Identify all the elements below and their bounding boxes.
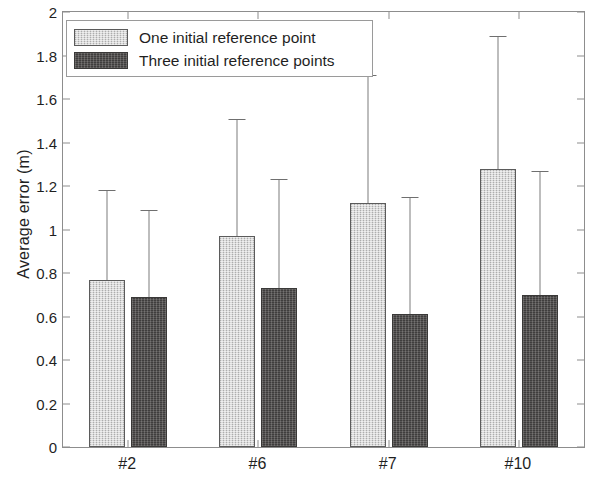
plot-inner: 00.20.40.60.811.21.41.61.82 (63, 12, 584, 447)
error-bar-line (539, 171, 540, 295)
legend-label-one-initial: One initial reference point (139, 30, 316, 46)
y-tick-mark-right (577, 142, 584, 143)
y-tick-label: 1.8 (7, 47, 57, 64)
y-tick-label: 1.6 (7, 91, 57, 108)
error-bar-cap (229, 119, 246, 120)
legend-swatch-light-gray (74, 29, 128, 46)
error-bar-line (279, 179, 280, 288)
y-tick-label: 0.2 (7, 395, 57, 412)
y-tick-label: 1.2 (7, 178, 57, 195)
x-tick-mark-top (388, 12, 389, 19)
y-tick-mark-right (577, 403, 584, 404)
legend-label-three-initial: Three initial reference points (139, 53, 335, 69)
error-bar-line (497, 36, 498, 169)
x-axis-category-label: #2 (118, 455, 136, 473)
bar-one-initial-n6 (219, 236, 255, 447)
y-tick-mark-right (577, 447, 584, 448)
y-tick-label: 0 (7, 439, 57, 456)
bar-chart-figure: Average error (m) 00.20.40.60.811.21.41.… (0, 0, 593, 484)
legend-entry-three-initial: Three initial reference points (74, 49, 365, 72)
y-tick-label: 1 (7, 221, 57, 238)
bar-three-initial-n10 (522, 295, 558, 447)
x-tick-mark (128, 440, 129, 447)
bar-one-initial-n10 (480, 169, 516, 447)
x-tick-mark (258, 440, 259, 447)
legend: One initial reference point Three initia… (66, 20, 373, 77)
x-tick-mark (518, 440, 519, 447)
error-bar-line (149, 210, 150, 297)
y-tick-label: 1.4 (7, 134, 57, 151)
y-tick-mark (63, 12, 70, 13)
y-tick-mark-right (577, 273, 584, 274)
y-tick-label: 0.8 (7, 265, 57, 282)
bar-one-initial-n7 (350, 203, 386, 447)
y-tick-mark (63, 142, 70, 143)
y-tick-label: 0.4 (7, 352, 57, 369)
y-tick-mark (63, 186, 70, 187)
legend-swatch-dark-gray (74, 52, 128, 69)
y-tick-mark (63, 403, 70, 404)
error-bar-cap (271, 179, 288, 180)
y-tick-mark (63, 229, 70, 230)
y-tick-mark (63, 316, 70, 317)
error-bar-cap (141, 210, 158, 211)
bar-three-initial-n6 (261, 288, 297, 447)
x-axis-category-label: #7 (379, 455, 397, 473)
x-tick-mark (388, 440, 389, 447)
y-tick-mark-right (577, 360, 584, 361)
y-tick-label: 2 (7, 4, 57, 21)
error-bar-line (367, 75, 368, 203)
legend-entry-one-initial: One initial reference point (74, 26, 365, 49)
bar-three-initial-n2 (131, 297, 167, 447)
x-tick-mark-top (258, 12, 259, 19)
y-tick-mark (63, 273, 70, 274)
bar-one-initial-n2 (89, 280, 125, 447)
x-tick-mark-top (128, 12, 129, 19)
y-tick-mark-right (577, 12, 584, 13)
error-bar-line (107, 190, 108, 279)
x-tick-mark-top (518, 12, 519, 19)
y-tick-mark (63, 447, 70, 448)
error-bar-cap (489, 36, 506, 37)
error-bar-line (409, 197, 410, 314)
error-bar-cap (99, 190, 116, 191)
x-axis-category-label: #10 (505, 455, 532, 473)
y-tick-mark-right (577, 186, 584, 187)
y-tick-mark (63, 360, 70, 361)
y-tick-mark (63, 99, 70, 100)
x-axis-category-label: #6 (248, 455, 266, 473)
bar-three-initial-n7 (392, 314, 428, 447)
y-tick-label: 0.6 (7, 308, 57, 325)
error-bar-cap (531, 171, 548, 172)
y-tick-mark-right (577, 99, 584, 100)
y-tick-mark-right (577, 55, 584, 56)
y-tick-mark-right (577, 229, 584, 230)
error-bar-line (237, 119, 238, 236)
error-bar-cap (401, 197, 418, 198)
y-tick-mark-right (577, 316, 584, 317)
